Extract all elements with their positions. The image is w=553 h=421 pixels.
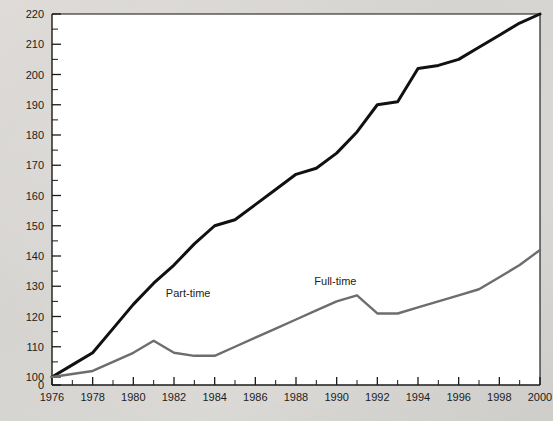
x-tick-label: 1984 [202, 391, 226, 403]
y-axis-ticks [52, 14, 61, 385]
x-axis-tick-labels: 1976197819801982198419861988199019921994… [40, 391, 552, 403]
x-tick-label: 1988 [284, 391, 308, 403]
x-tick-label: 1996 [446, 391, 470, 403]
y-tick-label: 120 [26, 311, 44, 323]
line-chart-figure: 1001101201301401501601701801902002102200… [0, 0, 553, 421]
y-axis-tick-labels: 1001101201301401501601701801902002102200 [26, 8, 44, 391]
series-line-part-time [52, 14, 540, 377]
y-tick-label: 130 [26, 280, 44, 292]
x-tick-label: 1990 [324, 391, 348, 403]
y-tick-label: 110 [26, 341, 44, 353]
x-tick-label: 1982 [162, 391, 186, 403]
y-tick-label: 150 [26, 220, 44, 232]
x-axis-ticks [52, 377, 540, 385]
series-annotations: Part-timeFull-time [166, 275, 357, 299]
y-tick-label: 220 [26, 8, 44, 20]
x-tick-label: 2000 [528, 391, 552, 403]
series-annotation-label: Part-time [166, 287, 211, 299]
y-tick-label: 210 [26, 38, 44, 50]
x-tick-label: 1976 [40, 391, 64, 403]
x-tick-label: 1980 [121, 391, 145, 403]
y-tick-label: 140 [26, 250, 44, 262]
chart-svg: 1001101201301401501601701801902002102200… [0, 0, 553, 421]
y-tick-label: 170 [26, 159, 44, 171]
x-tick-label: 1998 [487, 391, 511, 403]
x-tick-label: 1992 [365, 391, 389, 403]
x-tick-label: 1986 [243, 391, 267, 403]
plot-frame [52, 14, 540, 385]
y-tick-label: 190 [26, 99, 44, 111]
data-series-group [52, 14, 540, 377]
y-tick-label: 180 [26, 129, 44, 141]
y-tick-label: 160 [26, 190, 44, 202]
series-annotation-label: Full-time [314, 275, 356, 287]
x-tick-label: 1994 [406, 391, 430, 403]
y-tick-label-zero: 0 [38, 379, 44, 391]
x-tick-label: 1978 [80, 391, 104, 403]
y-tick-label: 200 [26, 69, 44, 81]
